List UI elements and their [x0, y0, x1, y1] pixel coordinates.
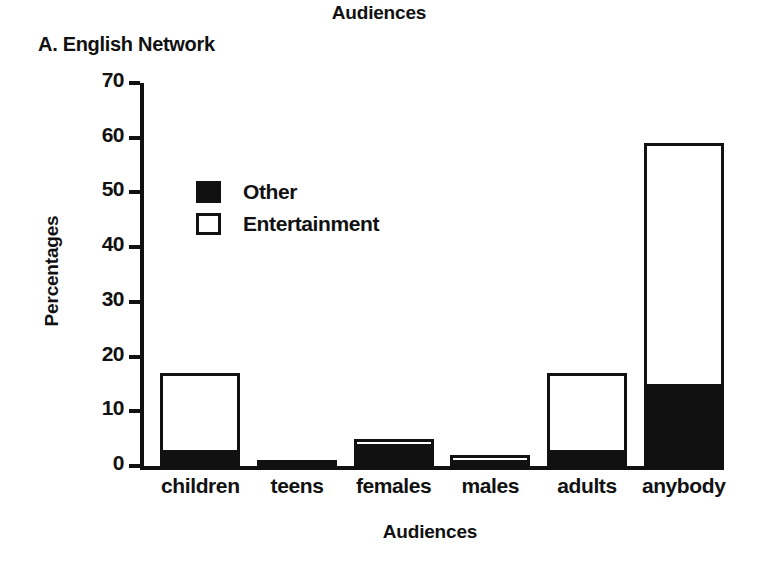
panel-label: A. English Network: [38, 33, 215, 56]
bar-segment-other: [644, 384, 724, 466]
legend-item: Other: [196, 176, 379, 208]
y-axis-tick-label: 60: [54, 123, 124, 147]
y-axis-tick: [129, 81, 140, 85]
bar-stack: [257, 83, 337, 466]
legend-swatch-open-icon: [196, 213, 221, 235]
y-axis-tick: [129, 136, 140, 140]
y-axis-tick: [129, 464, 140, 468]
y-axis-tick: [129, 409, 140, 413]
bar-stack: [644, 83, 724, 466]
y-axis-tick-label: 20: [54, 342, 124, 366]
y-axis-tick-label: 40: [54, 232, 124, 256]
y-axis-tick-label: 30: [54, 287, 124, 311]
bar-segment-other: [450, 460, 530, 466]
chart-legend: OtherEntertainment: [196, 176, 379, 240]
plot-area: [140, 83, 720, 466]
y-axis-tick: [129, 245, 140, 249]
bar-segment-other: [160, 450, 240, 466]
legend-item: Entertainment: [196, 208, 379, 240]
y-axis-tick-label: 10: [54, 396, 124, 420]
y-axis-tick: [129, 300, 140, 304]
chart-figure: Audiences A. English Network Percentages…: [0, 0, 758, 562]
bar-segment-other: [547, 450, 627, 466]
y-axis-tick-label: 50: [54, 177, 124, 201]
x-axis-title: Audiences: [140, 521, 720, 543]
y-axis-tick: [129, 355, 140, 359]
bar-stack: [354, 83, 434, 466]
bar-segment-other: [354, 444, 434, 466]
y-axis-tick-label: 0: [54, 451, 124, 475]
bar-stack: [547, 83, 627, 466]
bar-stack: [160, 83, 240, 466]
bar-segment-other: [257, 460, 337, 466]
legend-label: Entertainment: [243, 212, 379, 236]
x-axis-tick-label: anybody: [614, 474, 754, 498]
y-axis-tick-label: 70: [54, 68, 124, 92]
y-axis-tick: [129, 190, 140, 194]
chart-title: Audiences: [0, 2, 758, 24]
y-axis-title: Percentages: [41, 181, 63, 361]
x-axis-line: [140, 466, 724, 470]
legend-swatch-filled-icon: [196, 181, 221, 203]
legend-label: Other: [243, 180, 297, 204]
bar-stack: [450, 83, 530, 466]
